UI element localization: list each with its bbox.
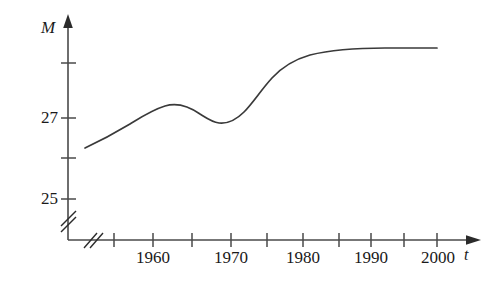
x-tick-label-2000: 2000 <box>421 248 455 268</box>
data-curve <box>85 48 437 148</box>
x-tick-label-1990: 1990 <box>354 248 388 268</box>
y-tick-label-27: 27 <box>41 108 58 128</box>
y-axis <box>63 14 73 240</box>
x-axis <box>68 235 481 245</box>
x-tick-label-1960: 1960 <box>136 248 170 268</box>
chart-figure: M t 27 25 1960 1970 1980 1990 2000 <box>0 0 502 291</box>
x-tick-label-1970: 1970 <box>214 248 248 268</box>
y-tick-label-25: 25 <box>41 189 58 209</box>
x-axis-title: t <box>464 246 468 264</box>
x-tick-label-1980: 1980 <box>286 248 320 268</box>
x-axis-arrowhead <box>466 235 481 245</box>
y-axis-title: M <box>41 18 55 38</box>
y-axis-arrowhead <box>63 14 73 28</box>
